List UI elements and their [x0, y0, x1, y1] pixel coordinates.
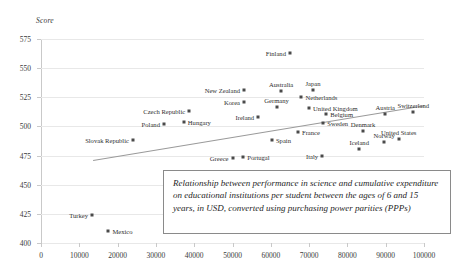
data-point-label: Poland	[142, 121, 160, 128]
data-point[interactable]	[288, 51, 291, 54]
x-axis-tickmark	[347, 243, 348, 247]
data-point[interactable]	[270, 139, 273, 142]
y-axis-tick-label: 425	[5, 210, 31, 219]
data-point[interactable]	[412, 111, 415, 114]
data-point[interactable]	[358, 147, 361, 150]
x-axis-tickmark	[79, 243, 80, 247]
y-axis-tick-label: 500	[5, 122, 31, 131]
y-axis-tickmark	[37, 97, 41, 98]
y-axis-tickmark	[37, 39, 41, 40]
chart-annotation-box: Relationship between performance in scie…	[163, 170, 451, 234]
x-axis-tickmark	[194, 243, 195, 247]
data-point[interactable]	[325, 112, 328, 115]
data-point-label: Turkey	[69, 212, 88, 219]
data-point[interactable]	[242, 155, 245, 158]
gridline	[41, 68, 424, 69]
y-axis-tick-label: 550	[5, 64, 31, 73]
data-point-label: Japan	[305, 80, 320, 87]
data-point-label: Italy	[306, 152, 318, 159]
y-axis-tickmark	[37, 126, 41, 127]
data-point-label: Czech Republic	[143, 108, 185, 115]
y-axis-tick-label: 450	[5, 181, 31, 190]
data-point-label: Portugal	[247, 153, 269, 160]
data-point-label: Denmark	[351, 121, 376, 128]
data-point-label: Korea	[224, 98, 240, 105]
data-point-label: Germany	[264, 97, 289, 104]
data-point-label: Sweden	[327, 119, 348, 126]
data-point-label: Spain	[276, 137, 291, 144]
data-point-label: Ireland	[235, 114, 254, 121]
data-point-label: France	[302, 129, 320, 136]
data-point-label: Slovak Republic	[85, 137, 129, 144]
x-axis-tickmark	[424, 243, 425, 247]
data-point-label: Hungary	[188, 118, 211, 125]
data-point[interactable]	[384, 112, 387, 115]
data-point-label: Iceland	[350, 139, 369, 146]
data-point-label: Austria	[376, 104, 395, 111]
data-point[interactable]	[280, 90, 283, 93]
data-point[interactable]	[131, 139, 134, 142]
data-point[interactable]	[296, 131, 299, 134]
data-point[interactable]	[321, 154, 324, 157]
data-point[interactable]	[188, 110, 191, 113]
data-point[interactable]	[311, 89, 314, 92]
y-axis-tick-label: 575	[5, 35, 31, 44]
data-point-label: Greece	[210, 154, 229, 161]
data-point-label: Finland	[266, 49, 286, 56]
y-axis-tickmark	[37, 214, 41, 215]
data-point-label: Norway	[374, 132, 395, 139]
data-point[interactable]	[107, 230, 110, 233]
data-point[interactable]	[257, 116, 260, 119]
data-point-label: New Zealand	[205, 87, 240, 94]
data-point-label: Mexico	[112, 228, 132, 235]
data-point[interactable]	[242, 100, 245, 103]
gridline	[41, 39, 424, 40]
science-spending-scatter-chart: Score FinlandNew ZealandAustraliaJapanKo…	[0, 0, 462, 276]
y-axis-title: Score	[36, 16, 54, 25]
x-axis-tickmark	[118, 243, 119, 247]
y-axis-tick-label: 475	[5, 152, 31, 161]
y-axis-tickmark	[37, 156, 41, 157]
y-axis-tickmark	[37, 185, 41, 186]
data-point[interactable]	[308, 106, 311, 109]
data-point[interactable]	[275, 105, 278, 108]
y-axis-tickmark	[37, 68, 41, 69]
data-point[interactable]	[182, 120, 185, 123]
x-axis-tickmark	[233, 243, 234, 247]
x-axis-tickmark	[271, 243, 272, 247]
x-axis-tickmark	[41, 243, 42, 247]
data-point[interactable]	[397, 138, 400, 141]
data-point-label: Australia	[269, 81, 293, 88]
data-point[interactable]	[322, 121, 325, 124]
data-point-label: Belgium	[330, 110, 353, 117]
data-point[interactable]	[300, 96, 303, 99]
data-point-label: Switzerland	[398, 102, 430, 109]
y-axis-tick-label: 525	[5, 93, 31, 102]
x-axis-tickmark	[309, 243, 310, 247]
data-point[interactable]	[362, 130, 365, 133]
x-axis-tickmark	[156, 243, 157, 247]
data-point[interactable]	[383, 140, 386, 143]
x-axis-tickmark	[386, 243, 387, 247]
y-axis-tick-label: 400	[5, 239, 31, 248]
x-axis-tick-label: 100000	[401, 251, 447, 260]
data-point[interactable]	[231, 156, 234, 159]
data-point-label: Netherlands	[305, 94, 337, 101]
data-point[interactable]	[90, 214, 93, 217]
chart-annotation-text: Relationship between performance in scie…	[173, 177, 441, 214]
data-point[interactable]	[162, 123, 165, 126]
data-point[interactable]	[242, 89, 245, 92]
